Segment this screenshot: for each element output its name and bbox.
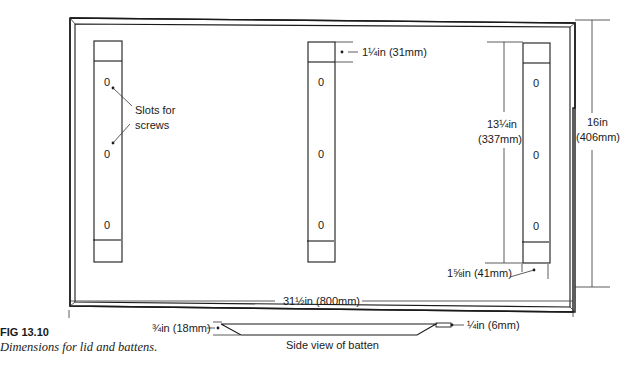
side-view-label: Side view of batten [286, 339, 379, 351]
slot-mark: 0 [533, 77, 539, 89]
height-dimension-2: (406mm) [576, 131, 620, 143]
slot-mark: 0 [104, 76, 110, 88]
end-block-dimension: 1¼in (31mm) [362, 46, 427, 58]
slot-mark: 0 [533, 149, 539, 161]
slot-mark: 0 [318, 148, 324, 160]
slot-mark: 0 [104, 219, 110, 231]
batten-thin-dimension: ¼in (6mm) [467, 319, 520, 331]
slot-mark: 0 [318, 76, 324, 88]
batten-thick-dimension: ¾in (18mm) [152, 322, 211, 334]
width-dimension: 31½in (800mm) [283, 295, 360, 307]
figure-caption: Dimensions for lid and battens. [0, 340, 157, 355]
slot-mark: 0 [533, 220, 539, 232]
slots-label-2: screws [135, 119, 170, 131]
figure-number: FIG 13.10 [0, 326, 49, 338]
slots-label: Slots for [135, 104, 176, 116]
slot-mark: 0 [318, 219, 324, 231]
batten-span-dim-2: (337mm) [478, 133, 522, 145]
height-dimension-1: 16in [587, 116, 608, 128]
slot-mark: 0 [104, 148, 110, 160]
batten-span-dim-1: 13¼in [487, 118, 517, 130]
bottom-gap-dimension: 1⅝in (41mm) [447, 267, 512, 279]
batten-side-view [207, 322, 464, 335]
lid-diagram: 0 0 0 Slots for screws 0 0 0 1¼in (31mm)… [0, 0, 639, 372]
